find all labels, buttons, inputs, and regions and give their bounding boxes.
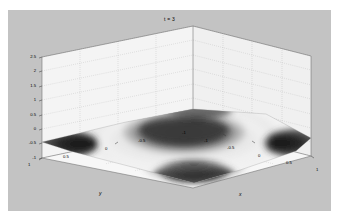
z-tick-label: -0.5 [20, 140, 36, 145]
surface-plot-svg [8, 10, 331, 211]
z-tick-label: 2 [20, 68, 36, 73]
y-tick-label: 0.5 [63, 154, 69, 159]
matlab-figure: t = 3 [8, 10, 331, 211]
x-tick-label: -1 [204, 138, 208, 143]
y-tick-label: -1 [182, 130, 186, 135]
z-tick-label: 1.5 [20, 83, 36, 88]
z-tick-label: 2.5 [20, 54, 36, 59]
y-axis-label: y [99, 190, 102, 196]
z-tick-label: 1 [20, 97, 36, 102]
plot-axes: 2.5 2 1.5 1 0.5 0 -0.5 -1 1 0.5 0 -0.5 -… [8, 10, 331, 211]
y-tick-label: 0 [105, 146, 107, 151]
x-tick-label: 0.5 [286, 160, 292, 165]
screenshot-root: t = 3 [0, 0, 343, 222]
x-axis-label: x [239, 191, 242, 197]
x-tick-label: 0 [258, 153, 260, 158]
x-tick-label: -0.5 [227, 145, 234, 150]
y-tick-label: -0.5 [138, 138, 145, 143]
z-tick-label: 0 [20, 126, 36, 131]
x-tick-label: 1 [316, 167, 318, 172]
y-tick-label: 1 [28, 162, 30, 167]
z-tick-label: 0.5 [20, 112, 36, 117]
z-tick-label: -1 [20, 155, 36, 160]
